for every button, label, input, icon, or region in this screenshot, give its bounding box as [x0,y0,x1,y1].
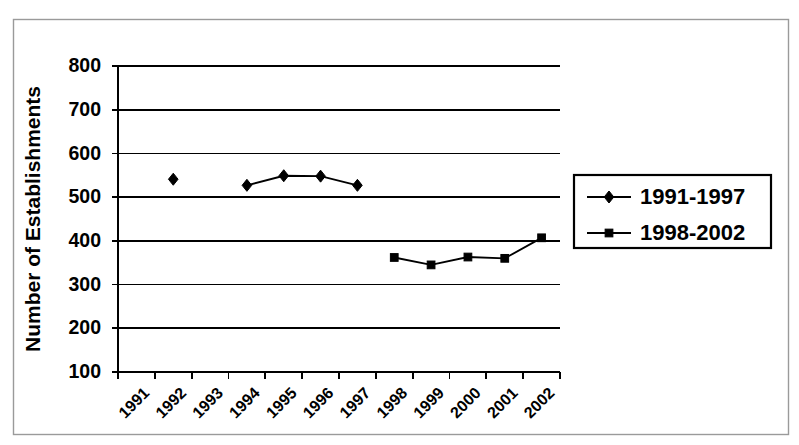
y-tick-label: 500 [68,185,101,207]
data-point-marker [464,253,472,261]
y-axis-title: Number of Establishments [21,86,44,352]
y-tick-label: 100 [68,360,101,382]
y-tick-label: 300 [68,273,101,295]
chart-svg: 100200300400500600700800 199119921993199… [0,0,799,445]
chart-figure: 100200300400500600700800 199119921993199… [0,0,799,445]
y-tick-label: 800 [68,54,101,76]
chart-legend[interactable]: 1991-19971998-2002 [574,175,771,248]
data-point-marker [390,254,398,262]
y-tick-label: 400 [68,229,101,251]
data-point-marker [538,234,546,242]
data-point-marker [427,261,435,269]
y-tick-label: 700 [68,98,101,120]
legend-label: 1998-2002 [640,220,745,245]
legend-label: 1991-1997 [640,184,745,209]
y-tick-label: 200 [68,316,101,338]
data-point-marker [501,254,509,262]
plot-area-background [118,66,560,372]
y-tick-label: 600 [68,142,101,164]
legend-marker-square [605,229,613,237]
